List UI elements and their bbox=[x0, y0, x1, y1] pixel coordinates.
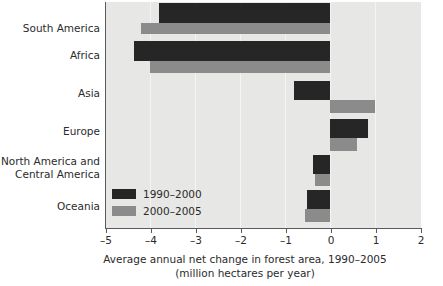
category-label-south-america: South America bbox=[0, 22, 100, 35]
y-axis-line bbox=[105, 2, 106, 229]
x-axis-title-line1: Average annual net change in forest area… bbox=[103, 253, 386, 265]
tick-mark-plus1 bbox=[376, 229, 377, 233]
bar-oceania-1990-2000 bbox=[307, 190, 330, 209]
tick-label-zero: 0 bbox=[316, 234, 346, 246]
tick-label-minus1: –1 bbox=[271, 234, 301, 246]
bar-south-america-2000-2005 bbox=[141, 23, 330, 34]
tick-mark-plus2 bbox=[421, 229, 422, 233]
tick-label-minus2: –2 bbox=[226, 234, 256, 246]
bar-europe-2000-2005 bbox=[330, 138, 357, 151]
tick-mark-minus4 bbox=[151, 229, 152, 233]
gridline-zero bbox=[330, 2, 331, 228]
tick-mark-minus3 bbox=[196, 229, 197, 233]
x-axis-line bbox=[105, 228, 422, 229]
tick-label-plus2: 2 bbox=[406, 234, 436, 246]
bar-north-central-america-2000-2005 bbox=[315, 174, 330, 186]
forest-area-change-chart: 1990–2000 2000–2005 South America Africa… bbox=[0, 0, 443, 286]
legend-item-2000-2005: 2000–2005 bbox=[112, 203, 202, 218]
legend-label-1990-2000: 1990–2000 bbox=[143, 188, 202, 200]
legend-label-2000-2005: 2000–2005 bbox=[143, 205, 202, 217]
tick-mark-minus5 bbox=[106, 229, 107, 233]
gridline-minus2 bbox=[240, 2, 241, 228]
category-label-europe: Europe bbox=[0, 125, 100, 138]
bar-europe-1990-2000 bbox=[330, 119, 368, 138]
legend: 1990–2000 2000–2005 bbox=[112, 186, 202, 220]
bar-oceania-2000-2005 bbox=[305, 209, 330, 222]
gridline-minus1 bbox=[285, 2, 286, 228]
bar-north-central-america-1990-2000 bbox=[313, 155, 330, 174]
x-axis-title: Average annual net change in forest area… bbox=[60, 252, 430, 280]
category-label-asia: Asia bbox=[0, 87, 100, 100]
category-label-oceania: Oceania bbox=[0, 200, 100, 213]
legend-swatch-icon-light bbox=[112, 206, 136, 216]
legend-swatch-icon-dark bbox=[112, 189, 136, 199]
category-label-north-central-america: North America and Central America bbox=[0, 155, 100, 180]
bar-africa-2000-2005 bbox=[150, 61, 330, 73]
tick-mark-minus1 bbox=[286, 229, 287, 233]
category-label-africa: Africa bbox=[0, 49, 100, 62]
bar-asia-1990-2000 bbox=[294, 81, 330, 100]
legend-item-1990-2000: 1990–2000 bbox=[112, 186, 202, 201]
gridline-plus1 bbox=[375, 2, 376, 228]
tick-label-minus5: –5 bbox=[91, 234, 121, 246]
plot-area: 1990–2000 2000–2005 bbox=[106, 2, 421, 228]
bar-south-america-1990-2000 bbox=[159, 3, 330, 23]
x-axis-title-line2: (million hectares per year) bbox=[60, 266, 430, 280]
bar-africa-1990-2000 bbox=[134, 41, 330, 61]
bar-asia-2000-2005 bbox=[330, 100, 375, 113]
tick-label-plus1: 1 bbox=[361, 234, 391, 246]
tick-label-minus3: –3 bbox=[181, 234, 211, 246]
tick-mark-minus2 bbox=[241, 229, 242, 233]
tick-mark-zero bbox=[331, 229, 332, 233]
tick-label-minus4: –4 bbox=[136, 234, 166, 246]
